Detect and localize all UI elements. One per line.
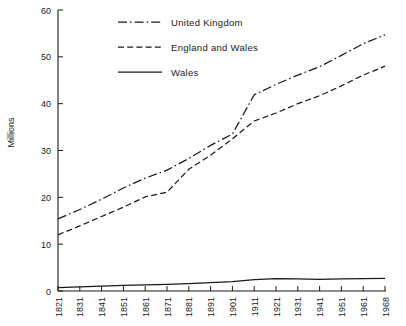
x-axis-tick-label: 1821: [54, 297, 64, 317]
series-line-wales: [58, 278, 385, 287]
y-axis-tick-label: 20: [41, 193, 51, 203]
legend-label-wales: Wales: [171, 67, 199, 78]
y-axis-tick-label: 0: [46, 287, 51, 297]
x-axis-tick-label: 1851: [119, 297, 129, 317]
legend-label-england-and-wales: England and Wales: [171, 42, 258, 53]
chart-plot-area: 0102030405060Millions1821183118411851186…: [0, 0, 406, 326]
x-axis-tick-label: 1968: [381, 297, 391, 317]
x-axis-tick-label: 1951: [337, 297, 347, 317]
series-line-united-kingdom: [58, 35, 385, 219]
y-axis-tick-label: 50: [41, 52, 51, 62]
x-axis-tick-label: 1891: [206, 297, 216, 317]
x-axis-tick-label: 1961: [359, 297, 369, 317]
x-axis-tick-label: 1841: [97, 297, 107, 317]
x-axis-tick-label: 1941: [315, 297, 325, 317]
x-axis-tick-label: 1861: [141, 297, 151, 317]
series-line-england-and-wales: [58, 66, 385, 235]
x-axis-tick-label: 1931: [293, 297, 303, 317]
y-axis-tick-label: 40: [41, 99, 51, 109]
x-axis-tick-label: 1831: [75, 297, 85, 317]
y-axis-tick-label: 60: [41, 6, 51, 16]
x-axis-tick-label: 1881: [184, 297, 194, 317]
x-axis-tick-label: 1921: [272, 297, 282, 317]
legend-label-united-kingdom: United Kingdom: [171, 17, 243, 28]
population-line-chart: 0102030405060Millions1821183118411851186…: [0, 0, 406, 326]
x-axis-tick-label: 1911: [250, 297, 260, 316]
y-axis-tick-label: 10: [41, 240, 51, 250]
y-axis-tick-label: 30: [41, 146, 51, 156]
y-axis-title: Millions: [6, 117, 16, 148]
x-axis-tick-label: 1871: [163, 297, 173, 317]
x-axis-tick-label: 1901: [228, 297, 238, 317]
